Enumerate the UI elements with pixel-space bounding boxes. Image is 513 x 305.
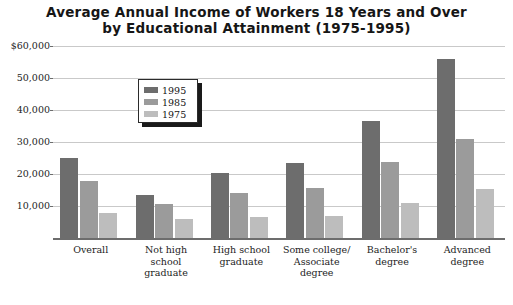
- bar: [230, 193, 248, 238]
- bar-group: [362, 46, 419, 238]
- bar: [325, 216, 343, 238]
- x-axis-label-line: degree: [271, 267, 362, 279]
- legend-label: 1995: [162, 85, 186, 96]
- bar: [306, 188, 324, 238]
- legend-item: 1995: [144, 84, 193, 96]
- bar-group: [437, 46, 494, 238]
- bar: [136, 195, 154, 238]
- plot-area: [53, 46, 505, 238]
- income-bar-chart: Average Annual Income of Workers 18 Year…: [0, 0, 513, 305]
- legend-label: 1975: [162, 109, 186, 120]
- y-axis-tick-label: $60,000: [2, 41, 50, 51]
- bar: [401, 203, 419, 238]
- bar: [476, 189, 494, 238]
- y-axis-tick-label: 40,000: [2, 105, 50, 115]
- legend-swatch: [144, 99, 158, 105]
- legend: 199519851975: [138, 79, 198, 123]
- legend-item: 1985: [144, 96, 193, 108]
- legend-swatch: [144, 87, 158, 93]
- x-axis-baseline: [53, 238, 505, 240]
- chart-title-line-2: by Educational Attainment (1975-1995): [0, 20, 513, 36]
- y-axis: $60,00050,00040,00030,00020,00010,000: [0, 0, 50, 305]
- bar: [437, 59, 455, 238]
- x-axis-label-line: Advanced: [422, 244, 513, 256]
- y-axis-tick-label: 10,000: [2, 201, 50, 211]
- legend-label: 1985: [162, 97, 186, 108]
- y-axis-tick-label: 30,000: [2, 137, 50, 147]
- y-axis-tick-label: 20,000: [2, 169, 50, 179]
- y-axis-tick-label: 50,000: [2, 73, 50, 83]
- legend-swatch: [144, 111, 158, 117]
- bar: [381, 162, 399, 238]
- chart-title: Average Annual Income of Workers 18 Year…: [0, 4, 513, 36]
- bar: [286, 163, 304, 238]
- bar: [175, 219, 193, 238]
- bar-group: [60, 46, 117, 238]
- bar-group: [136, 46, 193, 238]
- bar: [211, 173, 229, 238]
- x-axis-label-line: graduate: [120, 267, 211, 279]
- x-axis-label-line: degree: [422, 256, 513, 268]
- bar: [456, 139, 474, 238]
- bar: [80, 181, 98, 238]
- bar: [99, 213, 117, 238]
- x-axis-label: Advanceddegree: [422, 244, 513, 267]
- bar: [250, 217, 268, 238]
- bar-group: [211, 46, 268, 238]
- bar: [362, 121, 380, 238]
- legend-item: 1975: [144, 108, 193, 120]
- chart-title-line-1: Average Annual Income of Workers 18 Year…: [0, 4, 513, 20]
- bar: [155, 204, 173, 238]
- bar: [60, 158, 78, 238]
- bar-group: [286, 46, 343, 238]
